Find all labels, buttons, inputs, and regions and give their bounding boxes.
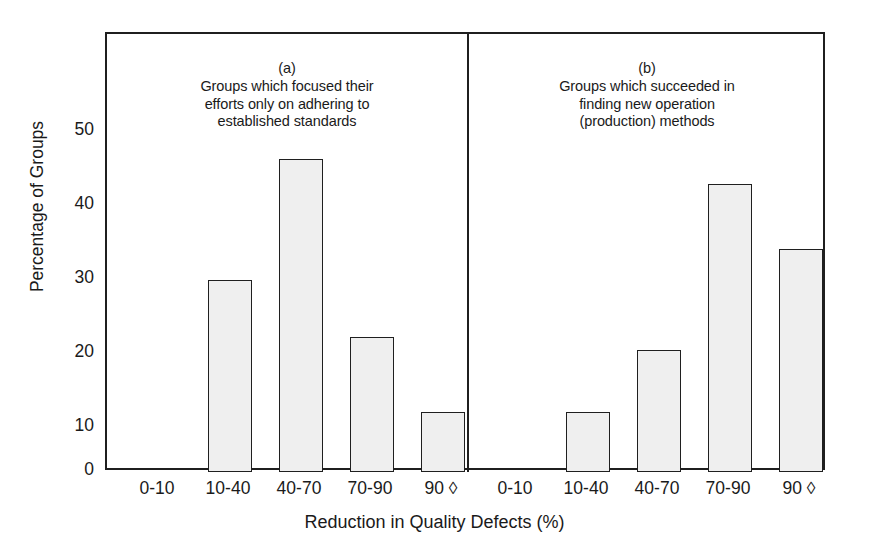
- panel-b-bars: [467, 34, 827, 472]
- panel-b: (b)Groups which succeeded in finding new…: [467, 34, 827, 468]
- y-tick-label-10: 10: [48, 415, 94, 436]
- bar-a-90plus: [421, 412, 465, 472]
- y-tick-label-0: 0: [48, 459, 94, 480]
- panel-a-bars: [107, 34, 467, 472]
- plot-area: (a)Groups which focused their efforts on…: [105, 32, 825, 470]
- bar-b-10-40: [566, 412, 610, 472]
- bar-chart-figure: 50 40 30 20 10 0 Percentage of Groups (a…: [0, 0, 869, 560]
- y-tick-label-40: 40: [48, 193, 94, 214]
- y-tick-label-50: 50: [48, 119, 94, 140]
- x-axis-title: Reduction in Quality Defects (%): [0, 512, 869, 533]
- y-tick-label-30: 30: [48, 267, 94, 288]
- panel-a: (a)Groups which focused their efforts on…: [107, 34, 467, 468]
- bar-a-70-90: [350, 337, 394, 472]
- bar-a-10-40: [208, 280, 252, 472]
- x-tick-label-b-90plus: 90 ◊: [754, 478, 844, 499]
- bar-a-40-70: [279, 159, 323, 472]
- bar-b-90plus: [779, 249, 823, 472]
- bar-b-70-90: [708, 184, 752, 472]
- y-tick-label-20: 20: [48, 341, 94, 362]
- bar-b-40-70: [637, 350, 681, 472]
- y-axis-title: Percentage of Groups: [27, 42, 48, 372]
